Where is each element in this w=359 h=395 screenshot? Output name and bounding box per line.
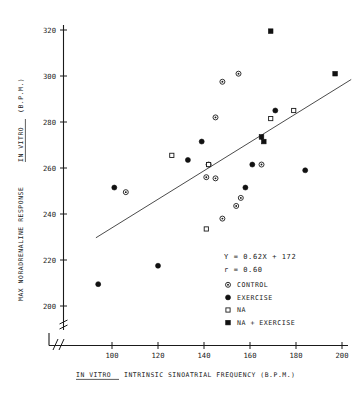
series-na-exercise [259,29,337,144]
y-tick-label: 320 [43,26,56,35]
data-point-layer [96,29,338,287]
data-point-marker [262,139,267,144]
data-point-marker [259,162,264,167]
data-point-marker [238,195,243,200]
y-axis-title: MAX NORADRENALINE RESPONSE IN VITRO (B.P… [17,78,25,301]
data-point-marker [226,295,231,300]
data-point-marker [204,175,209,180]
data-point-marker [204,227,208,231]
axes [49,25,348,346]
x-tick-label: 200 [336,351,349,360]
data-point-marker [156,263,161,268]
legend-item-control: CONTROL [226,281,269,289]
data-point-marker [220,79,225,84]
y-axis-title-prefix: MAX NORADRENALINE RESPONSE [17,187,25,301]
legend-item-exercise: EXERCISE [226,294,273,302]
annotation-layer: Y = 0.62X + 172 r = 0.60 [224,253,296,274]
regression-equation-label: Y = 0.62X + 172 [224,253,296,261]
legend-item-na-exercise: NA + EXERCISE [226,319,295,327]
legend-item-label: NA [237,306,246,314]
series-na [170,108,296,231]
y-tick-label: 260 [43,164,56,173]
data-point-marker [292,108,296,112]
data-point-marker [185,157,190,162]
data-point-marker [199,139,204,144]
x-tick-label: 100 [106,351,119,360]
data-point-marker [268,29,273,34]
legend-item-label: CONTROL [237,281,268,289]
legend-item-label: NA + EXERCISE [237,319,295,327]
data-point-marker [112,185,117,190]
data-point-marker [226,308,230,312]
y-axis-title-italic-part: IN VITRO [17,127,25,162]
y-tick-label: 280 [43,118,56,127]
data-point-marker [303,168,308,173]
data-point-marker [96,282,101,287]
data-point-marker [213,115,218,120]
x-axis-ticks: 100120140160180200 [106,342,349,360]
data-point-marker [269,116,273,120]
x-axis-title-italic-part: IN VITRO [76,371,111,379]
data-point-marker [259,135,264,140]
y-tick-label: 200 [43,302,56,311]
x-tick-label: 160 [244,351,257,360]
y-axis-title-suffix: (B.P.M.) [17,78,25,113]
data-point-marker [273,108,278,113]
data-point-marker [234,203,239,208]
y-tick-label: 300 [43,72,56,81]
data-point-marker [207,162,211,166]
y-tick-label: 240 [43,210,56,219]
data-point-marker [213,176,218,181]
scatter-plot-figure: 200220240260280300320 100120140160180200… [0,0,359,395]
data-point-marker [236,71,241,76]
data-point-marker [170,153,174,157]
y-tick-label: 220 [43,256,56,265]
data-point-marker [220,216,225,221]
x-axis-break-icon [53,339,64,350]
data-point-marker [243,185,248,190]
x-axis-title: IN VITRO INTRINSIC SINOATRIAL FREQUENCY … [76,371,296,379]
x-axis-title-rest: INTRINSIC SINOATRIAL FREQUENCY (B.P.M.) [124,371,296,379]
legend-item-label: EXERCISE [237,294,273,302]
data-point-marker [250,162,255,167]
chart-canvas: 200220240260280300320 100120140160180200… [0,0,359,395]
data-point-marker [226,282,231,287]
legend: CONTROLEXERCISENANA + EXERCISE [226,281,296,327]
data-point-marker [333,71,338,76]
data-point-marker [226,320,231,325]
x-tick-label: 180 [290,351,303,360]
correlation-coefficient-label: r = 0.60 [224,266,263,274]
data-point-marker [123,190,128,195]
legend-item-na: NA [226,306,246,314]
x-tick-label: 120 [152,351,165,360]
x-tick-label: 140 [198,351,211,360]
regression-fit-line [96,79,351,237]
